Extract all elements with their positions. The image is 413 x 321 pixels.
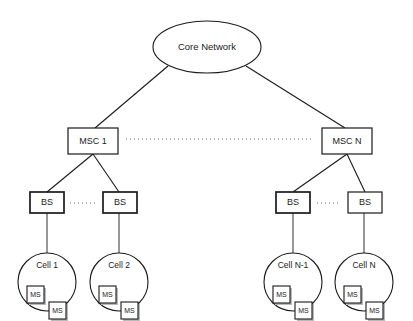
cell-n-1-ms-1[interactable]: MS [273, 286, 292, 305]
diagram-canvas: Core NetworkMSC 1MSC NBSBSBSBSCell 1MSMS… [0, 0, 413, 321]
node-layer: Core NetworkMSC 1MSC NBSBSBSBSCell 1MSMS… [18, 21, 393, 321]
cell-2-label: Cell 2 [108, 260, 130, 270]
ms-label: MS [298, 307, 309, 314]
cell-2-ms-2[interactable]: MS [121, 302, 140, 321]
cell-1-ms-2[interactable]: MS [49, 302, 68, 321]
bs-1-label: BS [41, 197, 53, 207]
bs-3-label: BS [287, 197, 299, 207]
network-topology-diagram: Core NetworkMSC 1MSC NBSBSBSBSCell 1MSMS… [0, 0, 413, 321]
ms-label: MS [102, 291, 113, 298]
cell-2-ms-1[interactable]: MS [99, 286, 118, 305]
msc-n-to-bs-3 [293, 154, 347, 192]
core-to-msc-1 [95, 66, 168, 128]
msc-1-label: MSC 1 [79, 136, 107, 146]
ms-label: MS [124, 307, 135, 314]
cell-n-1-ms-2[interactable]: MS [295, 302, 314, 321]
core-to-msc-n [246, 66, 345, 128]
ms-label: MS [369, 307, 380, 314]
core-network-label: Core Network [178, 41, 236, 52]
cell-n-1-label: Cell N-1 [278, 260, 309, 270]
edge-layer [47, 66, 365, 253]
cell-n-ms-1[interactable]: MS [344, 286, 363, 305]
ms-label: MS [52, 307, 63, 314]
msc-1-to-bs-2 [93, 154, 119, 192]
ms-label: MS [276, 291, 287, 298]
ms-label: MS [347, 291, 358, 298]
msc-n-to-bs-4 [347, 154, 365, 192]
bs-4-label: BS [359, 197, 371, 207]
ms-label: MS [30, 291, 41, 298]
msc-1-to-bs-1 [47, 154, 93, 192]
cell-1-ms-1[interactable]: MS [27, 286, 46, 305]
cell-1-label: Cell 1 [36, 260, 58, 270]
cell-n-label: Cell N [352, 260, 375, 270]
cell-n-ms-2[interactable]: MS [366, 302, 385, 321]
msc-n-label: MSC N [333, 136, 362, 146]
bs-2-label: BS [114, 197, 126, 207]
